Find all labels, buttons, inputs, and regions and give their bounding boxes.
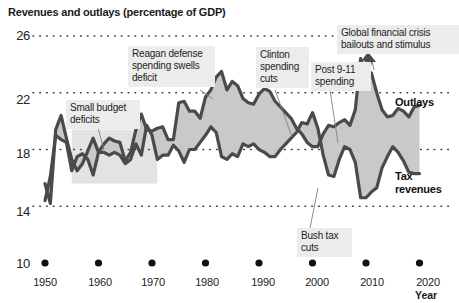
y-tick-14: 14 — [4, 204, 30, 219]
x-tick-dot-2000 — [309, 259, 316, 266]
y-tick-10: 10 — [4, 256, 30, 271]
x-axis-tick-dots — [41, 259, 423, 266]
annotation-line-1: Small budget — [70, 102, 136, 114]
x-tick-dot-2010 — [362, 259, 369, 266]
annotation-line-1: Global financial crisis — [341, 27, 455, 39]
leader-line-bush-tax-cuts — [310, 188, 318, 228]
x-tick-1980: 1980 — [185, 276, 229, 288]
x-tick-2000: 2000 — [295, 276, 339, 288]
x-tick-dot-2020 — [416, 259, 423, 266]
annotation-reagan-defense: Reagan defense spending swells deficit — [128, 46, 215, 87]
x-tick-dot-1970 — [148, 259, 155, 266]
annotation-post-911-spending: Post 9-11 spending — [311, 62, 371, 91]
annotation-line-2: spending — [260, 61, 305, 73]
annotation-line-1: Clinton — [260, 49, 305, 61]
x-tick-dot-1950 — [41, 259, 48, 266]
annotation-line-3: deficit — [132, 72, 211, 84]
x-tick-dot-1980 — [202, 259, 209, 266]
series-label-line-1: Tax — [395, 170, 442, 183]
x-tick-2020: 2020 — [406, 276, 450, 288]
x-tick-dot-1960 — [95, 259, 102, 266]
annotation-line-1: Post 9-11 — [315, 64, 367, 76]
x-tick-2010: 2010 — [350, 276, 394, 288]
annotation-line-2: spending swells — [132, 60, 211, 72]
annotation-line-1: Bush tax — [301, 230, 348, 242]
annotation-clinton-spending-cuts: Clinton spending cuts — [256, 47, 309, 88]
annotation-line-2: bailouts and stimulus — [341, 39, 455, 51]
annotation-global-financial-crisis: Global financial crisis bailouts and sti… — [337, 25, 459, 54]
annotation-bush-tax-cuts: Bush tax cuts — [297, 228, 352, 257]
series-label-tax-revenues: Tax revenues — [395, 170, 442, 195]
y-tick-26: 26 — [4, 28, 30, 43]
annotation-line-2: cuts — [301, 242, 348, 254]
series-label-outlays: Outlays — [395, 96, 434, 109]
annotation-small-budget-deficits: Small budget deficits — [66, 100, 140, 129]
x-tick-1990: 1990 — [241, 276, 285, 288]
x-tick-dot-1990 — [255, 259, 262, 266]
x-tick-1960: 1960 — [78, 276, 122, 288]
annotation-line-1: Reagan defense — [132, 48, 211, 60]
annotation-line-2: deficits — [70, 114, 136, 126]
x-axis-label: Year — [415, 289, 437, 301]
y-tick-18: 18 — [4, 146, 30, 161]
series-label-line-2: revenues — [395, 183, 442, 196]
y-tick-22: 22 — [4, 92, 30, 107]
annotation-line-3: cuts — [260, 73, 305, 85]
x-tick-1950: 1950 — [23, 276, 67, 288]
x-tick-1970: 1970 — [131, 276, 175, 288]
annotation-line-2: spending — [315, 76, 367, 88]
